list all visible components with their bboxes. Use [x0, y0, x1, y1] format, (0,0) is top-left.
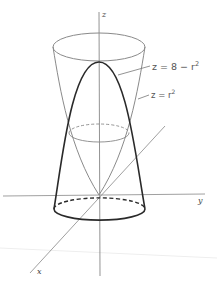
y-axis-label: y	[197, 196, 203, 205]
z-axis	[99, 12, 100, 276]
leader-line-downward	[118, 66, 150, 75]
x-axis	[30, 126, 165, 273]
background-scan-line	[0, 248, 217, 258]
intersection-circle-front	[69, 133, 129, 142]
equation-label-upward: z = r2	[151, 88, 175, 100]
leader-line-upward	[138, 95, 149, 99]
intersection-circle-back	[69, 124, 129, 133]
y-axis	[3, 194, 205, 196]
paraboloids-diagram: z = 8 − r2 z = r2 z y x	[0, 0, 217, 288]
x-axis-label: x	[37, 267, 42, 276]
z-axis-label: z	[101, 10, 107, 19]
equation-label-downward: z = 8 − r2	[152, 60, 199, 72]
